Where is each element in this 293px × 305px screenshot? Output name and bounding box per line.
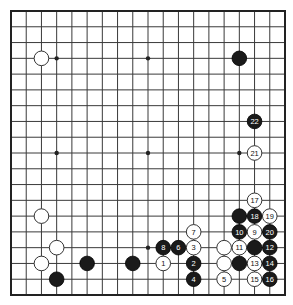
black-stone	[80, 256, 95, 271]
black-stone-disc	[49, 272, 64, 287]
move-number-label: 8	[161, 243, 165, 252]
white-stone-disc	[217, 240, 232, 255]
move-number-label: 1	[161, 259, 165, 268]
move-number-label: 5	[222, 275, 226, 284]
move-number-label: 4	[192, 275, 196, 284]
black-stone: 2	[186, 256, 201, 271]
black-stone: 14	[262, 256, 277, 271]
star-point	[54, 56, 58, 60]
black-stone: 20	[262, 225, 277, 240]
black-stone	[232, 209, 247, 224]
black-stone: 16	[262, 272, 277, 287]
move-number-label: 10	[235, 228, 243, 237]
white-stone	[34, 209, 49, 224]
white-stone	[217, 256, 232, 271]
black-stone-disc	[125, 256, 140, 271]
black-stone-disc	[232, 256, 247, 271]
black-stone-disc	[232, 51, 247, 66]
move-number-label: 16	[266, 275, 274, 284]
black-stone: 8	[156, 240, 171, 255]
move-number-label: 15	[250, 275, 258, 284]
black-stone: 4	[186, 272, 201, 287]
white-stone: 19	[262, 209, 277, 224]
move-number-label: 14	[266, 259, 274, 268]
white-stone: 5	[217, 272, 232, 287]
black-stone-disc	[80, 256, 95, 271]
star-point	[146, 56, 150, 60]
move-number-label: 6	[176, 243, 180, 252]
white-stone: 17	[247, 193, 262, 208]
black-stone: 18	[247, 209, 262, 224]
white-stone	[217, 240, 232, 255]
black-stone-disc	[247, 240, 262, 255]
black-stone	[232, 51, 247, 66]
white-stone: 21	[247, 146, 262, 161]
move-number-label: 21	[250, 149, 258, 158]
black-stone	[232, 256, 247, 271]
move-number-label: 22	[250, 117, 258, 126]
white-stone	[34, 51, 49, 66]
move-number-label: 9	[252, 228, 256, 237]
white-stone	[34, 256, 49, 271]
star-point	[146, 151, 150, 155]
move-number-label: 11	[235, 243, 243, 252]
move-number-label: 17	[250, 196, 258, 205]
move-number-label: 2	[192, 259, 196, 268]
move-number-label: 20	[266, 228, 274, 237]
black-stone	[125, 256, 140, 271]
white-stone	[49, 240, 64, 255]
white-stone-disc	[34, 209, 49, 224]
white-stone: 3	[186, 240, 201, 255]
move-number-label: 19	[266, 212, 274, 221]
white-stone: 15	[247, 272, 262, 287]
black-stone: 22	[247, 114, 262, 129]
white-stone-disc	[34, 256, 49, 271]
move-number-label: 3	[192, 243, 196, 252]
black-stone: 12	[262, 240, 277, 255]
star-point	[146, 245, 150, 249]
black-stone-disc	[232, 209, 247, 224]
black-stone	[49, 272, 64, 287]
white-stone: 9	[247, 225, 262, 240]
move-number-label: 13	[250, 259, 258, 268]
white-stone-disc	[34, 51, 49, 66]
move-number-label: 18	[250, 212, 258, 221]
move-number-label: 7	[192, 228, 196, 237]
black-stone: 6	[171, 240, 186, 255]
go-board[interactable]: 22211718191092011121314515167863124	[0, 0, 293, 305]
move-number-label: 12	[266, 243, 274, 252]
star-point	[237, 151, 241, 155]
white-stone: 13	[247, 256, 262, 271]
white-stone: 7	[186, 225, 201, 240]
white-stone: 1	[156, 256, 171, 271]
white-stone: 11	[232, 240, 247, 255]
star-point	[54, 151, 58, 155]
black-stone	[247, 240, 262, 255]
white-stone-disc	[49, 240, 64, 255]
black-stone: 10	[232, 225, 247, 240]
white-stone-disc	[217, 256, 232, 271]
